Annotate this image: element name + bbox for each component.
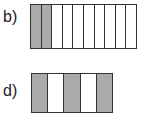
empty-cell — [116, 5, 127, 48]
shaded-cell — [42, 5, 53, 48]
empty-cell — [52, 5, 63, 48]
figure-d-label: d) — [3, 82, 17, 100]
figure-b-label: b) — [3, 8, 17, 26]
empty-cell — [84, 5, 95, 48]
empty-cell — [126, 5, 136, 48]
figure-d-grid — [31, 73, 113, 113]
shaded-cell — [97, 74, 112, 112]
empty-cell — [95, 5, 106, 48]
empty-cell — [81, 74, 97, 112]
shaded-cell — [64, 74, 80, 112]
empty-cell — [73, 5, 84, 48]
shaded-cell — [32, 74, 48, 112]
empty-cell — [105, 5, 116, 48]
shaded-cell — [31, 5, 42, 48]
empty-cell — [63, 5, 74, 48]
empty-cell — [48, 74, 64, 112]
figure-b-grid — [30, 4, 137, 49]
